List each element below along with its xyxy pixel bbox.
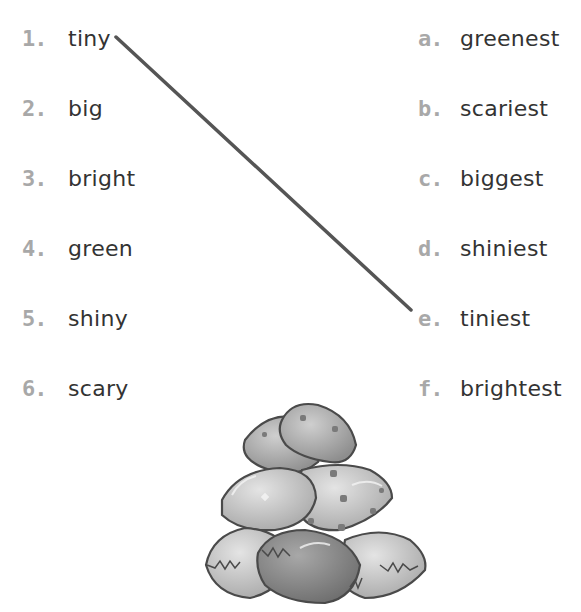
eggs-illustration [206, 404, 425, 603]
egg-icon [222, 468, 316, 530]
drawing-layer [0, 0, 581, 612]
match-line[interactable] [116, 37, 411, 310]
